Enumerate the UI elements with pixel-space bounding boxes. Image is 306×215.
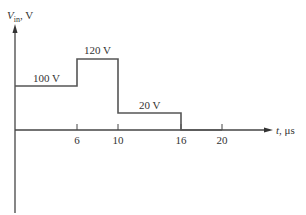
x-tick-label-10: 10 (113, 135, 124, 146)
annotation-20v: 20 V (139, 100, 161, 111)
x-axis-arrow-icon (264, 128, 273, 133)
y-axis-arrow-icon (13, 24, 18, 33)
annotation-100v: 100 V (33, 73, 60, 84)
x-axis-label: t, μs (276, 125, 295, 136)
vin-step-waveform (15, 59, 222, 130)
x-tick-label-20: 20 (217, 135, 228, 146)
y-axis-label: Vin, V (7, 10, 33, 24)
x-tick-label-6: 6 (74, 135, 80, 146)
annotation-120v: 120 V (84, 45, 111, 56)
x-tick-label-16: 16 (176, 135, 187, 146)
